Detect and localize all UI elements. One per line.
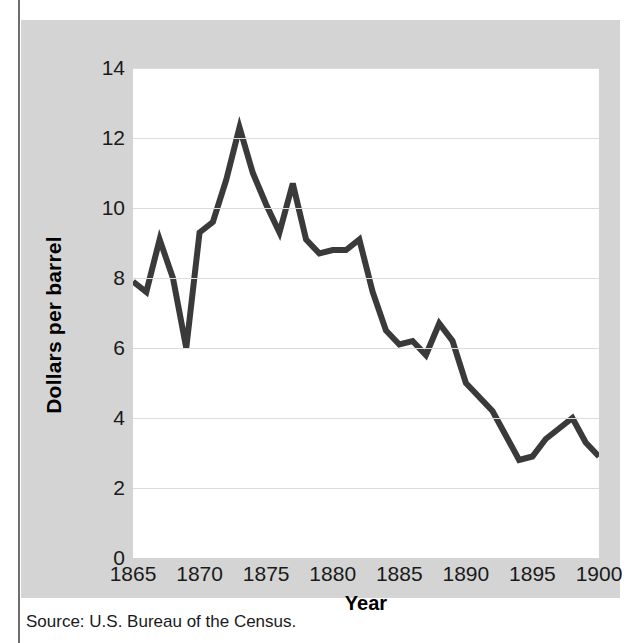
x-tick-label: 1900 [559,562,635,586]
y-tick-label: 2 [41,476,125,500]
gridline [133,138,599,139]
source-note: Source: U.S. Bureau of the Census. [26,612,296,632]
gridline [133,488,599,489]
gridline [133,208,599,209]
gridline [133,418,599,419]
y-tick-label: 14 [41,56,125,80]
y-tick-label: 6 [41,336,125,360]
gridline [133,278,599,279]
y-tick-label: 4 [41,406,125,430]
data-line-series [133,68,599,558]
y-axis-tick-labels: 02468101214 [33,68,125,558]
gridline [133,68,599,69]
gridline [133,348,599,349]
chart-panel: Dollars per barrel 02468101214 186518701… [21,20,620,598]
page-left-rule [18,0,20,643]
plot-area [133,68,599,558]
y-tick-label: 8 [41,266,125,290]
x-axis-tick-labels: 18651870187518801885189018951900 [133,562,599,592]
y-tick-label: 10 [41,196,125,220]
clipped-caption [22,0,618,8]
y-tick-label: 12 [41,126,125,150]
figure-container: Dollars per barrel 02468101214 186518701… [0,0,635,643]
